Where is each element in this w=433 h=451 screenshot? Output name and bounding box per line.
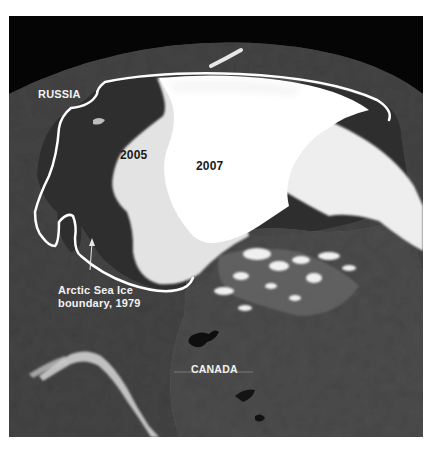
label-boundary-1979: Arctic Sea Ice boundary, 1979: [58, 284, 141, 309]
label-ice-2005: 2005: [120, 149, 148, 163]
label-ice-2007: 2007: [196, 160, 224, 174]
label-russia: RUSSIA: [38, 88, 81, 101]
label-boundary-line1: Arctic Sea Ice: [58, 284, 141, 297]
arctic-sea-ice-map: RUSSIA 2005 2007 Arctic Sea Ice boundary…: [9, 16, 423, 437]
label-boundary-line2: boundary, 1979: [58, 297, 141, 310]
label-canada: CANADA: [191, 363, 238, 375]
